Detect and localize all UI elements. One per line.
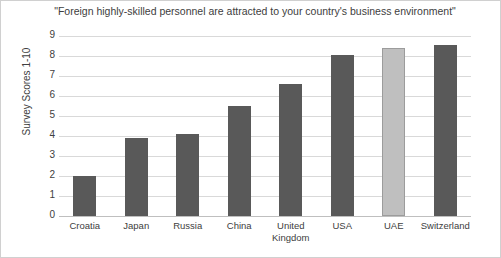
y-axis-tick-label: 4 (31, 129, 55, 140)
y-axis-tick-label: 6 (31, 89, 55, 100)
bar-uae[interactable] (382, 48, 405, 216)
y-axis-tick-label: 1 (31, 189, 55, 200)
chart-container: "Foreign highly-skilled personnel are at… (0, 0, 501, 258)
y-axis-tick-label: 2 (31, 169, 55, 180)
bar-series (59, 36, 471, 216)
x-axis-label-uae: UAE (368, 220, 420, 244)
bar-russia[interactable] (176, 134, 199, 216)
x-axis-labels: CroatiaJapanRussiaChinaUnited KingdomUSA… (59, 220, 471, 244)
y-axis-title: Survey Scores 1-10 (21, 12, 32, 172)
bar-slot (265, 36, 317, 216)
bar-slot (162, 36, 214, 216)
x-axis-label-croatia: Croatia (59, 220, 111, 244)
y-axis-tick-label: 3 (31, 149, 55, 160)
bar-slot (317, 36, 369, 216)
bar-switzerland[interactable] (434, 45, 457, 216)
gridline (59, 216, 471, 217)
x-axis-label-china: China (214, 220, 266, 244)
bar-croatia[interactable] (73, 176, 96, 216)
bar-japan[interactable] (125, 138, 148, 216)
chart-title: "Foreign highly-skilled personnel are at… (53, 5, 457, 18)
x-axis-label-japan: Japan (111, 220, 163, 244)
x-axis-label-usa: USA (317, 220, 369, 244)
bar-slot (111, 36, 163, 216)
bar-slot (420, 36, 472, 216)
bar-slot (368, 36, 420, 216)
bar-united-kingdom[interactable] (279, 84, 302, 216)
x-axis-label-russia: Russia (162, 220, 214, 244)
x-axis-label-switzerland: Switzerland (420, 220, 472, 244)
y-axis-tick-label: 0 (31, 209, 55, 220)
plot-area (59, 36, 471, 216)
bar-slot (214, 36, 266, 216)
bar-slot (59, 36, 111, 216)
bar-usa[interactable] (331, 55, 354, 216)
y-axis-tick-label: 7 (31, 69, 55, 80)
y-axis-tick-label: 5 (31, 109, 55, 120)
bar-china[interactable] (228, 106, 251, 216)
y-axis-tick-label: 9 (31, 29, 55, 40)
x-axis-label-united-kingdom: United Kingdom (265, 220, 317, 244)
y-axis-tick-label: 8 (31, 49, 55, 60)
